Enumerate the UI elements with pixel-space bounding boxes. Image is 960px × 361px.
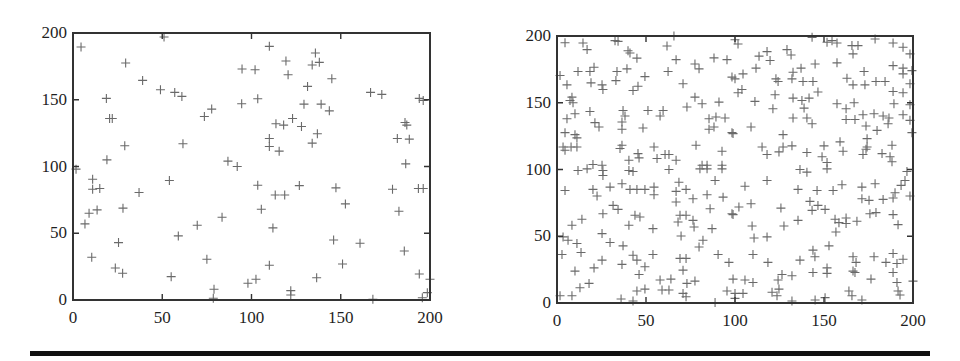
plus-marker-icon [820,141,829,150]
plus-marker-icon [709,123,718,132]
plus-marker-icon [894,220,903,229]
plus-marker-icon [747,123,756,132]
plus-marker-icon [682,185,691,194]
plus-marker-icon [727,128,736,137]
plus-marker-icon [590,63,599,72]
plus-marker-icon [578,38,587,47]
plus-marker-icon [789,94,798,103]
plus-marker-icon [889,249,898,258]
plus-marker-icon [729,210,738,219]
plus-marker-icon [798,77,807,86]
plus-marker-icon [663,42,672,51]
plus-marker-icon [779,130,788,139]
plus-marker-icon [567,291,576,300]
plus-marker-icon [629,251,638,260]
plus-marker-icon [795,256,804,265]
plus-marker-icon [787,74,796,83]
plus-marker-icon [624,46,633,55]
plus-marker-icon [763,150,772,159]
plus-marker-icon [672,156,681,165]
plus-marker-icon [632,286,641,295]
plus-marker-icon [724,258,733,267]
plus-marker-icon [808,77,817,86]
plus-marker-icon [899,255,908,264]
plus-marker-icon [739,289,748,298]
plus-marker-icon [849,49,858,58]
plus-marker-icon [818,152,827,161]
plus-marker-icon [679,266,688,275]
plus-marker-icon [787,296,796,305]
plus-marker-icon [629,86,638,95]
plus-marker-icon [664,165,673,174]
plus-marker-icon [839,147,848,156]
plus-marker-icon [858,110,867,119]
plus-marker-icon [797,96,806,105]
plus-marker-icon [871,179,880,188]
plus-marker-icon [870,109,879,118]
plus-marker-icon [857,183,866,192]
plus-marker-icon [889,99,898,108]
plus-marker-icon [836,137,845,146]
plus-marker-icon [794,216,803,225]
plus-marker-icon [789,68,798,77]
plus-marker-icon [570,267,579,276]
plus-marker-icon [709,53,718,62]
plus-marker-icon [787,50,796,59]
plus-marker-icon [640,185,649,194]
plus-marker-icon [887,157,896,166]
plus-marker-icon [583,164,592,173]
plus-marker-icon [748,278,757,287]
plus-marker-icon [705,114,714,123]
plus-marker-icon [572,239,581,248]
plus-marker-icon [828,36,837,45]
plus-marker-icon [672,187,681,196]
plus-marker-icon [842,74,851,83]
plus-marker-icon [688,194,697,203]
plus-marker-icon [635,270,644,279]
plus-marker-icon [748,250,757,259]
plus-marker-icon [682,279,691,288]
plus-marker-icon [871,77,880,86]
plus-marker-icon [879,195,888,204]
plus-marker-icon [598,171,607,180]
plus-marker-icon [679,79,688,88]
plus-marker-icon [711,113,720,122]
plus-marker-icon [640,72,649,81]
plus-marker-icon [622,64,631,73]
plus-marker-icon [740,276,749,285]
plus-marker-icon [562,114,571,123]
plus-marker-icon [787,141,796,150]
plus-marker-icon [821,205,830,214]
plus-marker-icon [682,254,691,263]
plus-marker-icon [690,277,699,286]
plus-marker-icon [865,196,874,205]
plus-marker-icon [823,164,832,173]
plus-marker-icon [664,286,673,295]
plus-marker-icon [860,80,869,89]
plus-marker-icon [889,61,898,70]
plus-marker-icon [763,258,772,267]
data-points [556,32,918,308]
plus-marker-icon [688,216,697,225]
plus-marker-icon [722,286,731,295]
plus-marker-icon [586,78,595,87]
plus-marker-icon [714,98,723,107]
plus-marker-icon [849,267,858,276]
plus-marker-icon [813,186,822,195]
x-tick-label: 0 [537,312,577,329]
plus-marker-icon [810,252,819,261]
plus-marker-icon [842,115,851,124]
plus-marker-icon [866,275,875,284]
plus-marker-icon [739,69,748,78]
plus-marker-icon [779,142,788,151]
plus-marker-icon [831,227,840,236]
plus-marker-icon [674,217,683,226]
plus-marker-icon [557,250,566,259]
plus-marker-icon [774,276,783,285]
plus-marker-icon [664,67,673,76]
plus-marker-icon [624,156,633,165]
plus-marker-icon [886,152,895,161]
plus-marker-icon [617,179,626,188]
plus-marker-icon [562,80,571,89]
plus-marker-icon [609,201,618,210]
